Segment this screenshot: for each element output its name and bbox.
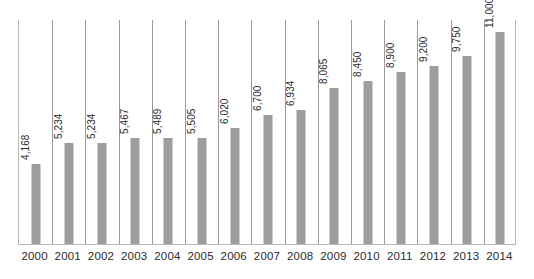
bar bbox=[131, 138, 140, 244]
bar-value-label: 5,489 bbox=[153, 108, 163, 134]
bar bbox=[164, 138, 173, 244]
bar-value-label: 11,000 bbox=[485, 0, 495, 28]
bar-group: 5,505 bbox=[185, 20, 218, 244]
bar bbox=[496, 32, 505, 244]
bar bbox=[230, 128, 239, 244]
bar-value-label: 5,234 bbox=[87, 113, 97, 139]
x-tick-label: 2005 bbox=[184, 248, 217, 264]
bar-group: 11,000 bbox=[484, 20, 517, 244]
bar bbox=[330, 88, 339, 244]
bar bbox=[463, 56, 472, 244]
bar-value-label: 5,467 bbox=[120, 108, 130, 134]
bar-group: 4,168 bbox=[19, 20, 52, 244]
x-tick-label: 2004 bbox=[151, 248, 184, 264]
bar-group: 5,489 bbox=[152, 20, 185, 244]
bar-group: 5,234 bbox=[85, 20, 118, 244]
x-tick-label: 2003 bbox=[118, 248, 151, 264]
bar-value-label: 9,750 bbox=[452, 26, 462, 52]
bar bbox=[64, 143, 73, 244]
bar-group: 6,020 bbox=[218, 20, 251, 244]
bar-value-label: 6,700 bbox=[253, 85, 263, 111]
x-tick-label: 2010 bbox=[350, 248, 383, 264]
bar-value-label: 6,934 bbox=[286, 80, 296, 106]
bar-value-label: 8,065 bbox=[319, 58, 329, 84]
bar-group: 5,467 bbox=[119, 20, 152, 244]
x-tick-label: 2001 bbox=[51, 248, 84, 264]
bar-group: 8,900 bbox=[384, 20, 417, 244]
x-tick-label: 2006 bbox=[217, 248, 250, 264]
bar-group: 5,234 bbox=[52, 20, 85, 244]
bar-value-label: 8,900 bbox=[386, 42, 396, 68]
bar-group: 8,065 bbox=[318, 20, 351, 244]
plot-area: 4,1685,2345,2345,4675,4895,5056,0206,700… bbox=[18, 20, 516, 245]
x-tick-label: 2008 bbox=[284, 248, 317, 264]
x-tick-label: 2002 bbox=[84, 248, 117, 264]
bar bbox=[263, 115, 272, 244]
bar-value-label: 8,450 bbox=[353, 51, 363, 77]
x-tick-label: 2009 bbox=[317, 248, 350, 264]
bar bbox=[297, 110, 306, 244]
bar-group: 9,200 bbox=[417, 20, 450, 244]
bar-group: 6,934 bbox=[285, 20, 318, 244]
x-axis-tick-labels: 2000200120022003200420052006200720082009… bbox=[18, 248, 516, 272]
bar bbox=[97, 143, 106, 244]
x-tick-label: 2007 bbox=[250, 248, 283, 264]
x-tick-label: 2011 bbox=[383, 248, 416, 264]
x-tick-label: 2000 bbox=[18, 248, 51, 264]
bar bbox=[197, 138, 206, 244]
bar-group: 6,700 bbox=[251, 20, 284, 244]
bar-chart: 4,1685,2345,2345,4675,4895,5056,0206,700… bbox=[0, 0, 534, 279]
bar bbox=[429, 66, 438, 244]
bar-group: 9,750 bbox=[451, 20, 484, 244]
bar bbox=[363, 81, 372, 244]
x-tick-label: 2014 bbox=[483, 248, 516, 264]
bar-value-label: 6,020 bbox=[220, 98, 230, 124]
x-tick-label: 2012 bbox=[416, 248, 449, 264]
bar-group: 8,450 bbox=[351, 20, 384, 244]
bar-value-label: 5,505 bbox=[187, 108, 197, 134]
bar-value-label: 5,234 bbox=[54, 113, 64, 139]
bar-value-label: 4,168 bbox=[21, 134, 31, 160]
bar bbox=[396, 72, 405, 244]
bar bbox=[31, 164, 40, 244]
bar-value-label: 9,200 bbox=[419, 36, 429, 62]
x-tick-label: 2013 bbox=[450, 248, 483, 264]
